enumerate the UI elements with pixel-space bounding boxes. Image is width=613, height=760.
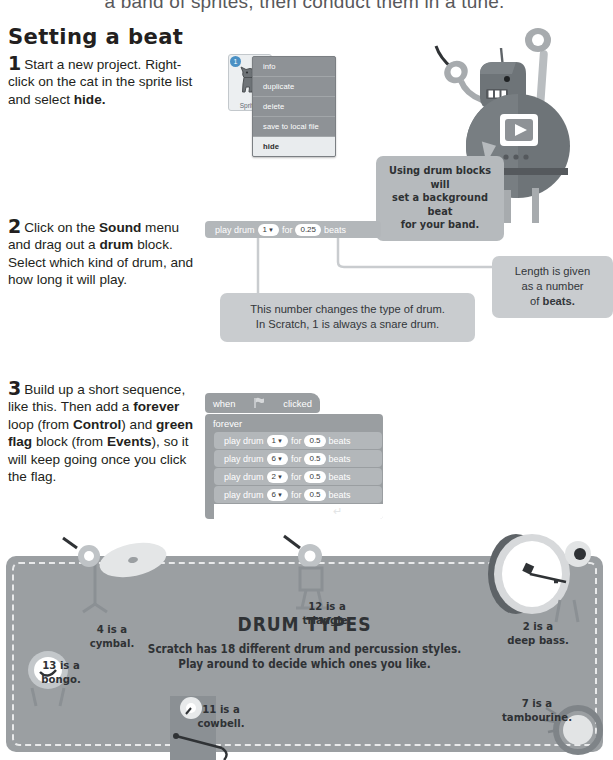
drum-number-value: 1: [263, 225, 267, 235]
step-number: 2: [8, 215, 21, 237]
label-deep-bass: 2 is adeep bass.: [498, 620, 577, 648]
text-run: Build up a short sequence,: [24, 382, 185, 397]
block-label-for: for: [291, 436, 302, 446]
text-run: like this. Then add a: [8, 399, 133, 414]
play-drum-block-1[interactable]: play drum1▼for0.5beats: [214, 432, 382, 449]
callout-line: Length is given: [498, 264, 607, 279]
beats-input[interactable]: 0.5: [304, 471, 325, 483]
callout-line: This number changes the type of drum.: [226, 302, 469, 317]
script-stack[interactable]: when clicked forever play drum1▼for0.5be…: [205, 393, 393, 519]
block-label-for: for: [291, 472, 302, 482]
drum-number-value: 2: [272, 472, 276, 482]
block-label-play-drum: play drum: [224, 436, 264, 446]
text-run: as a number: [521, 280, 583, 292]
beats-value: 0.25: [300, 225, 316, 235]
text-run: Click on the: [24, 220, 99, 235]
text-run: loop (from: [8, 417, 73, 432]
block-label-play-drum: play drum: [224, 454, 264, 464]
context-menu-item-delete[interactable]: delete: [253, 97, 335, 117]
text-run: Start a new project.: [24, 57, 141, 72]
block-label-play-drum: play drum: [215, 225, 255, 235]
speech-bubble-line: for your band.: [386, 218, 494, 232]
block-label-beats: beats: [329, 454, 351, 464]
context-menu-item-hide[interactable]: hide: [253, 137, 335, 156]
drum-label-line: 13 is a: [27, 659, 95, 673]
beats-input[interactable]: 0.5: [304, 453, 325, 465]
beats-input[interactable]: 0.5: [304, 435, 325, 447]
chevron-down-icon: ▼: [277, 454, 283, 464]
chevron-down-icon: ▼: [277, 436, 283, 446]
context-menu-item-duplicate[interactable]: duplicate: [253, 77, 335, 97]
beats-value: 0.5: [309, 472, 320, 482]
speech-bubble: Using drum blocks willset a background b…: [376, 156, 504, 241]
speech-bubble-line: set a background beat: [386, 191, 494, 218]
drum-number-dropdown[interactable]: 6▼: [267, 453, 288, 465]
text-run: Length is given: [515, 265, 590, 277]
play-drum-block-4[interactable]: play drum6▼for0.5beats: [214, 486, 382, 503]
chevron-down-icon: ▼: [277, 490, 283, 500]
drum-label-line: 4 is a: [75, 623, 149, 637]
drum-number-dropdown[interactable]: 1▼: [267, 435, 288, 447]
cymbal-illustration: [55, 534, 175, 624]
sprite-context-menu[interactable]: infoduplicatedeletesave to local filehid…: [252, 56, 336, 157]
text-run: Control: [73, 417, 121, 432]
block-label-beats: beats: [324, 225, 346, 235]
drum-label-line: 2 is a: [498, 620, 577, 634]
block-label-beats: beats: [329, 490, 351, 500]
block-label-play-drum: play drum: [224, 472, 264, 482]
label-bongo: 13 is abongo.: [27, 659, 95, 687]
drum-label-line: 7 is a: [494, 697, 580, 711]
text-run: beats.: [543, 295, 575, 307]
beats-value: 0.5: [309, 454, 320, 464]
callout-line: of beats.: [498, 294, 607, 309]
beats-input[interactable]: 0.25: [295, 224, 321, 236]
text-run: Sound: [99, 220, 141, 235]
drum-label-line: triangle.: [290, 614, 364, 628]
beats-input[interactable]: 0.5: [304, 489, 325, 501]
when-green-flag-clicked-block[interactable]: when clicked: [205, 393, 320, 413]
context-menu-item-info[interactable]: info: [253, 57, 335, 77]
block-label-play-drum: play drum: [224, 490, 264, 500]
block-label-for: for: [291, 490, 302, 500]
drum-number-dropdown[interactable]: 2▼: [267, 471, 288, 483]
step-number: 3: [8, 377, 21, 399]
play-drum-block-body[interactable]: play drum 1 ▼ for 0.25 beats: [205, 221, 381, 238]
block-label-clicked: clicked: [283, 398, 312, 409]
label-tambourine: 7 is atambourine.: [494, 697, 580, 725]
drum-number-dropdown[interactable]: 1 ▼: [258, 224, 279, 236]
drum-number-value: 1: [272, 436, 276, 446]
step-number: 1: [8, 52, 21, 74]
play-drum-block-2[interactable]: play drum6▼for0.5beats: [214, 450, 382, 467]
text-run: menu: [141, 220, 179, 235]
beats-value: 0.5: [309, 490, 320, 500]
play-drum-block-3[interactable]: play drum2▼for0.5beats: [214, 468, 382, 485]
loop-arrow-icon: ↵: [333, 505, 342, 518]
block-label-beats: beats: [329, 472, 351, 482]
forever-label: forever: [205, 417, 383, 432]
forever-loop-foot: ↵: [205, 504, 383, 519]
step-3: 3Build up a short sequence, like this. T…: [8, 381, 204, 485]
forever-loop-body: play drum1▼for0.5beatsplay drum6▼for0.5b…: [214, 432, 383, 503]
beats-value: 0.5: [309, 436, 320, 446]
drum-label-line: 11 is a: [186, 703, 256, 717]
play-drum-block[interactable]: play drum 1 ▼ for 0.25 beats: [205, 221, 381, 238]
text-run: of: [530, 295, 542, 307]
callout-drum-type: This number changes the type of drum.In …: [220, 293, 475, 342]
text-run: hide.: [74, 92, 106, 107]
context-menu-item-save-to-local-file[interactable]: save to local file: [253, 117, 335, 137]
drum-label-line: bongo.: [27, 673, 95, 687]
text-run: ) and: [121, 417, 152, 432]
text-run: block.: [133, 237, 172, 252]
chevron-down-icon: ▼: [277, 472, 283, 482]
drum-number-value: 6: [272, 454, 276, 464]
drum-number-dropdown[interactable]: 6▼: [267, 489, 288, 501]
drum-label-line: tambourine.: [494, 711, 580, 725]
drum-types-subtitle-line: Play around to decide which ones you lik…: [30, 657, 579, 672]
drum-label-line: cymbal.: [75, 637, 149, 651]
text-run: Select which kind of drum,: [8, 255, 167, 270]
forever-loop-block[interactable]: forever play drum1▼for0.5beatsplay drum6…: [205, 414, 383, 519]
callout-beats-length: Length is givenas a numberof beats.: [492, 256, 613, 318]
drum-number-value: 6: [272, 490, 276, 500]
drum-label-line: cowbell.: [186, 717, 256, 731]
